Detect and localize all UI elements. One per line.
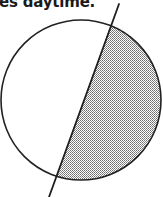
day-night-diagram xyxy=(0,0,163,197)
